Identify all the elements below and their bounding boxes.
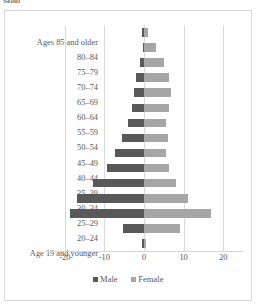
x-axis-tick: 10	[179, 253, 187, 262]
legend-item[interactable]: Female	[131, 274, 164, 284]
legend-swatch-icon	[93, 277, 98, 282]
bar-female	[144, 239, 146, 248]
bar-male	[70, 209, 144, 218]
bar-male	[122, 134, 144, 143]
bar-female	[144, 104, 169, 113]
x-axis-tick-labels: -20-1001020	[45, 253, 243, 267]
bar-male	[136, 73, 144, 82]
bar-female	[144, 119, 166, 128]
legend-label: Female	[138, 274, 163, 284]
bar-row	[45, 191, 243, 206]
bar-female	[144, 194, 188, 203]
bar-row	[45, 25, 243, 40]
chart-container: Seoul Ages 85 and older80–8475–7970–7465…	[0, 0, 257, 306]
chart-legend: MaleFemale	[5, 274, 251, 284]
bar-row	[45, 176, 243, 191]
bar-row	[45, 40, 243, 55]
x-axis-tick: 20	[219, 253, 227, 262]
bar-male	[77, 194, 144, 203]
bar-female	[144, 134, 168, 143]
legend-item[interactable]: Male	[93, 274, 118, 284]
bar-male	[132, 104, 144, 113]
x-axis-tick: -10	[99, 253, 110, 262]
bar-row	[45, 221, 243, 236]
bar-female	[144, 179, 176, 188]
x-axis-tick: -20	[59, 253, 70, 262]
top-caption: Seoul	[3, 0, 20, 4]
bar-row	[45, 161, 243, 176]
bar-row	[45, 206, 243, 221]
legend-swatch-icon	[131, 277, 136, 282]
bar-row	[45, 55, 243, 70]
bar-male	[93, 179, 144, 188]
bar-female	[144, 58, 164, 67]
bar-row	[45, 85, 243, 100]
plot-area	[45, 25, 243, 251]
bar-row	[45, 146, 243, 161]
bar-male	[128, 119, 144, 128]
bar-male	[123, 224, 144, 233]
bar-female	[144, 224, 180, 233]
bar-row	[45, 100, 243, 115]
bar-female	[144, 149, 166, 158]
bar-male	[115, 149, 144, 158]
legend-label: Male	[100, 274, 118, 284]
x-axis-tick: 0	[142, 253, 146, 262]
bar-female	[144, 28, 148, 37]
bar-female	[144, 43, 156, 52]
bar-female	[144, 209, 211, 218]
bar-row	[45, 115, 243, 130]
chart-frame: Ages 85 and older80–8475–7970–7465–6960–…	[4, 10, 252, 301]
bar-female	[144, 88, 171, 97]
bar-male	[107, 164, 144, 173]
bar-row	[45, 70, 243, 85]
bar-female	[144, 164, 169, 173]
bar-row	[45, 130, 243, 145]
bar-female	[144, 73, 169, 82]
bar-rows	[45, 25, 243, 251]
x-axis-line	[45, 251, 243, 252]
bar-row	[45, 236, 243, 251]
bar-male	[134, 88, 144, 97]
